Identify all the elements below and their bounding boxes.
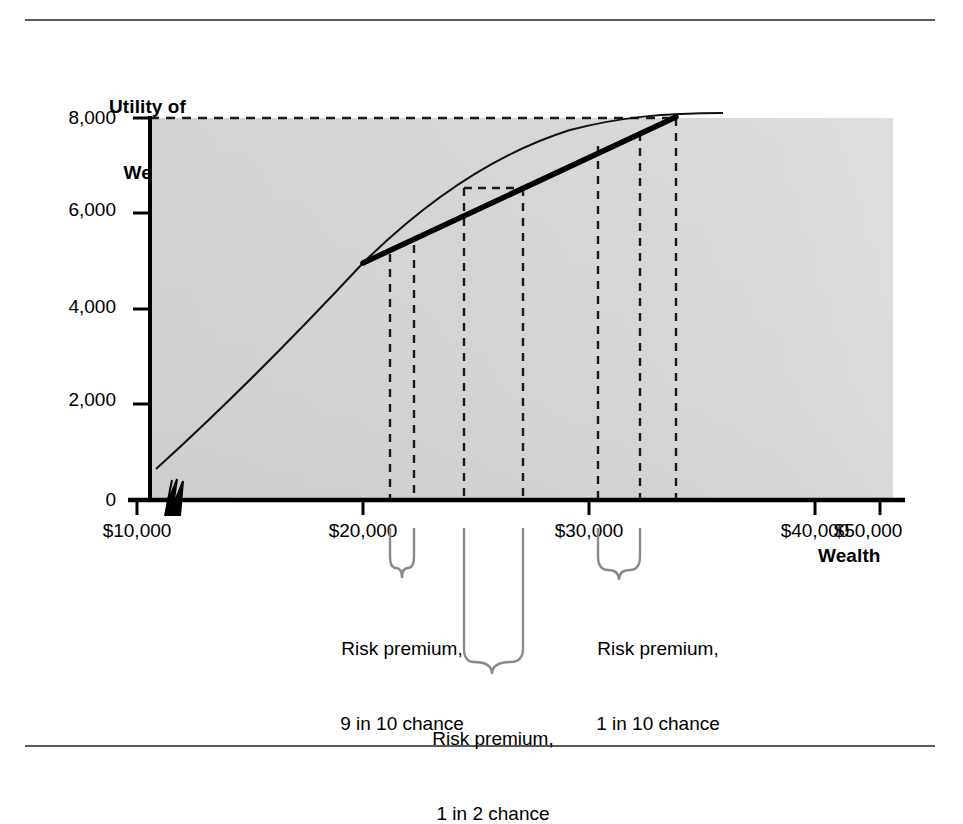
bracket-risk-premium-1-in-10 bbox=[598, 528, 640, 580]
annotation-1-in-2-line2: 1 in 2 chance bbox=[378, 801, 608, 824]
bracket-risk-premium-1-in-2 bbox=[464, 528, 523, 674]
plot-background-overlay bbox=[150, 118, 893, 500]
bracket-risk-premium-9-in-10 bbox=[390, 528, 414, 578]
